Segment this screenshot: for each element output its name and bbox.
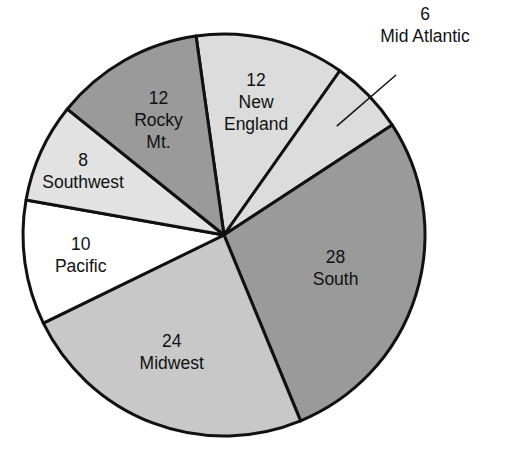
slice-name-rocky-mt: Mt. (146, 132, 170, 152)
slice-name-pacific: Pacific (55, 256, 107, 276)
slice-value-south: 28 (326, 247, 345, 267)
slice-name-midwest: Midwest (140, 353, 204, 373)
slice-value-new-england: 12 (246, 70, 265, 90)
slice-value-pacific: 10 (71, 234, 91, 254)
pie-chart: 12NewEngland6Mid Atlantic28South24Midwes… (0, 0, 511, 461)
slice-name-south: South (313, 269, 359, 289)
slice-value-mid-atlantic: 6 (420, 4, 430, 24)
slice-name-southwest: Southwest (42, 172, 124, 192)
slice-name-rocky-mt: Rocky (134, 110, 183, 130)
slice-name-new-england: England (224, 114, 288, 134)
slice-name-new-england: New (239, 92, 274, 112)
slice-value-rocky-mt: 12 (149, 88, 168, 108)
slice-label-mid-atlantic: 6Mid Atlantic (380, 4, 470, 46)
slice-value-southwest: 8 (78, 150, 88, 170)
slice-name-mid-atlantic: Mid Atlantic (380, 26, 470, 46)
slice-value-midwest: 24 (162, 331, 182, 351)
